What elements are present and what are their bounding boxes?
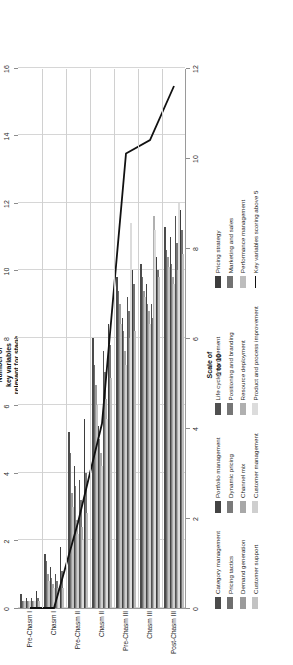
legend-label: Positioning and branding [227,332,234,400]
line-axis-tick-label: 8 [192,247,199,251]
legend-item[interactable]: Pricing strategy [214,191,221,289]
legend-swatch-icon [215,501,221,513]
legend-line-icon [255,276,256,288]
stage-separator [90,69,91,608]
line-axis-tick-label: 2 [192,517,199,521]
line-axis-tick-mark [186,608,190,609]
stage-label: Post-Chasm III [170,611,177,663]
legend-item[interactable]: Key variables scoring above 5 [252,191,259,289]
stage-separator [138,69,139,608]
stage-label: Pre-Chasm III [122,611,129,663]
legend-label: Resource deployment [239,340,246,400]
stage-label: Chasm II [98,611,105,663]
legend-label: Customer management [252,433,259,498]
legend-label: Channel mix [239,464,246,498]
legend-item[interactable]: Dynamic pricing [227,433,234,513]
legend-label: Dynamic pricing [227,454,234,498]
line-series-key-variables-scoring-above-5 [18,68,186,608]
legend-swatch-icon [252,597,258,609]
legend-label: Category management [214,531,221,594]
line-axis-ticks: 024681012 [186,69,206,609]
legend-item[interactable]: Customer support [252,531,259,609]
line-axis-tick-label: 0 [192,607,199,611]
line-axis-tick-mark [186,158,190,159]
line-axis-tick-label: 12 [192,65,199,73]
legend-label: Portfolio management [214,438,221,499]
bar-axis-tick-label: 0 [3,607,10,611]
legend-column: Life cycle managementPositioning and bra… [214,306,288,415]
legend-swatch-icon [240,501,246,513]
stage-label: Chasm III [146,611,153,663]
bar-axis-ticks: 0246810121416 [0,69,18,609]
legend-label: Key variables scoring above 5 [252,191,259,274]
legend-swatch-icon [215,597,221,609]
line-axis-tick-mark [186,338,190,339]
line-axis-tick-label: 10 [192,155,199,163]
plot-area [18,69,186,609]
line-axis-tick-mark [186,428,190,429]
legend-label: Product and process improvement [252,306,259,400]
stage-separator [162,69,163,608]
line-axis-tick-label: 6 [192,337,199,341]
legend-swatch-icon [240,597,246,609]
bar-axis-tick-label: 4 [3,472,10,476]
legend-swatch-icon [227,501,233,513]
bar-axis-tick-label: 16 [3,65,10,73]
legend-swatch-icon [215,276,221,288]
bar-axis-tick-label: 2 [3,540,10,544]
line-path [30,86,174,608]
legend-item[interactable]: Marketing and sales [227,191,234,289]
line-axis-tick-label: 4 [192,427,199,431]
legend-item[interactable]: Demand generation [239,531,246,609]
line-axis-tick-mark [186,248,190,249]
legend-item[interactable]: Positioning and branding [227,306,234,415]
legend-swatch-icon [227,597,233,609]
bar-axis-tick-label: 10 [3,268,10,276]
legend-item[interactable]: Portfolio management [214,433,221,513]
legend-swatch-icon [227,276,233,288]
legend-label: Pricing tactics [227,556,234,594]
bar-axis-tick-label: 12 [3,200,10,208]
line-axis-tick-mark [186,68,190,69]
legend-item[interactable]: Resource deployment [239,306,246,415]
stage-label: Pre-Chasm II [74,611,81,663]
chart-figure: Number of key variables relevant for sta… [0,0,293,665]
stage-separator [114,69,115,608]
legend-item[interactable]: Life cycle management [214,306,221,415]
legend-swatch-icon [240,276,246,288]
legend-swatch-icon [240,403,246,415]
bar-axis-tick-label: 14 [3,133,10,141]
stage-label: Chasm I [50,611,57,663]
chart-legend: Category managementPricing tacticsDemand… [214,9,288,609]
stage-label: Pre-Chasm I [26,611,33,663]
legend-item[interactable]: Customer management [252,433,259,513]
legend-swatch-icon [215,403,221,415]
bar-axis-tick-label: 8 [3,337,10,341]
stage-separator [42,69,43,608]
legend-swatch-icon [252,403,258,415]
bar-axis-tick-label: 6 [3,405,10,409]
legend-column: Pricing strategyMarketing and salesPerfo… [214,191,288,289]
legend-item[interactable]: Channel mix [239,433,246,513]
legend-item[interactable]: Category management [214,531,221,609]
legend-label: Demand generation [239,540,246,594]
legend-item[interactable]: Pricing tactics [227,531,234,609]
legend-label: Pricing strategy [214,231,221,274]
stage-separator [66,69,67,608]
legend-label: Customer support [252,545,259,594]
legend-column: Category managementPricing tacticsDemand… [214,531,288,609]
legend-item[interactable]: Performance management [239,191,246,289]
legend-label: Life cycle management [214,337,221,401]
legend-swatch-icon [252,501,258,513]
legend-label: Performance management [239,200,246,273]
legend-column: Portfolio managementDynamic pricingChann… [214,433,288,513]
legend-swatch-icon [227,403,233,415]
chart-plot-wrapper: Number of key variables relevant for sta… [0,0,293,665]
legend-label: Marketing and sales [227,218,234,273]
legend-item[interactable]: Product and process improvement [252,306,259,415]
line-axis-tick-mark [186,518,190,519]
